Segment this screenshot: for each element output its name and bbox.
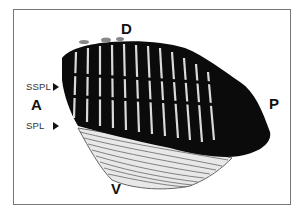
ventral-label: V (111, 181, 121, 196)
arrowhead-right-icon (53, 83, 59, 91)
specimen-image (0, 0, 302, 217)
sspl-annotation: SSPL (26, 82, 59, 92)
spl-label: SPL (26, 120, 45, 131)
posterior-label: P (269, 96, 279, 111)
spl-annotation: SPL (26, 121, 59, 131)
dorsal-label: D (121, 21, 132, 36)
sspl-label: SSPL (26, 81, 51, 92)
anterior-label: A (31, 97, 42, 112)
arrowhead-right-icon (53, 122, 59, 130)
